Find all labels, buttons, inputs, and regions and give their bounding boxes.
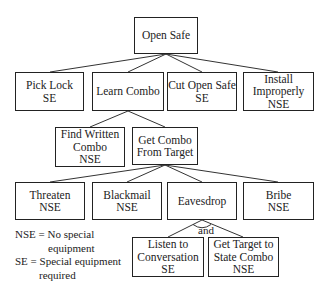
node-label-2: Conversation bbox=[137, 251, 198, 264]
node-blackmail: Blackmail NSE bbox=[92, 182, 162, 220]
edge-eavesdrop-listen bbox=[168, 220, 202, 237]
node-label: Blackmail bbox=[103, 189, 150, 202]
and-label: and bbox=[198, 224, 214, 236]
edge-learncombo-findwritten bbox=[90, 111, 128, 127]
node-bribe: Bribe NSE bbox=[243, 182, 314, 220]
edge-root-install bbox=[166, 54, 278, 72]
node-label: Learn Combo bbox=[96, 85, 160, 98]
node-equipment: NSE bbox=[268, 201, 290, 214]
node-equipment: NSE bbox=[116, 201, 138, 214]
node-threaten: Threaten NSE bbox=[15, 182, 85, 220]
node-equipment: NSE bbox=[268, 98, 290, 111]
legend-nse-line2: equipment bbox=[15, 242, 121, 256]
node-label-2: Improperly bbox=[253, 85, 305, 98]
legend-nse-line1: NSE = No special bbox=[15, 228, 121, 242]
node-label: Get Target to bbox=[213, 238, 273, 251]
node-get-target-to-state-combo: Get Target to State Combo NSE bbox=[208, 237, 279, 277]
node-equipment: SE bbox=[43, 92, 56, 105]
node-label: Eavesdrop bbox=[178, 195, 227, 208]
node-label: Find Written bbox=[61, 128, 119, 141]
node-label: Pick Lock bbox=[26, 79, 73, 92]
node-label: Cut Open Safe bbox=[168, 79, 236, 92]
node-learn-combo: Learn Combo bbox=[92, 72, 164, 111]
edge-getcombo-threaten bbox=[50, 165, 165, 182]
node-label: Install bbox=[264, 73, 293, 86]
edge-getcombo-bribe bbox=[165, 165, 278, 182]
legend: NSE = No special equipment SE = Special … bbox=[15, 228, 121, 282]
node-equipment: SE bbox=[195, 92, 208, 105]
node-equipment: NSE bbox=[79, 153, 101, 166]
node-get-combo-from-target: Get Combo From Target bbox=[132, 127, 198, 165]
legend-se-line1: SE = Special equipment bbox=[15, 255, 121, 269]
node-label: Bribe bbox=[266, 189, 292, 202]
node-eavesdrop: Eavesdrop bbox=[167, 182, 237, 220]
node-find-written-combo: Find Written Combo NSE bbox=[55, 127, 125, 167]
edge-learncombo-getcombo bbox=[128, 111, 165, 127]
node-pick-lock: Pick Lock SE bbox=[15, 72, 84, 111]
node-label-2: State Combo bbox=[214, 251, 274, 264]
node-label: Get Combo bbox=[138, 134, 191, 147]
node-label-2: Combo bbox=[73, 141, 107, 154]
node-equipment: SE bbox=[161, 263, 174, 276]
node-label: Listen to bbox=[148, 238, 189, 251]
node-open-safe: Open Safe bbox=[134, 17, 198, 54]
node-label: Open Safe bbox=[142, 29, 190, 42]
node-install-improperly: Install Improperly NSE bbox=[243, 72, 314, 111]
legend-se-line2: required bbox=[15, 269, 121, 283]
edge-root-picklock bbox=[50, 54, 166, 72]
node-label: Threaten bbox=[30, 189, 71, 202]
node-equipment: NSE bbox=[39, 201, 61, 214]
node-listen-to-conversation: Listen to Conversation SE bbox=[132, 237, 204, 277]
node-cut-open-safe: Cut Open Safe SE bbox=[167, 72, 237, 111]
node-equipment: NSE bbox=[233, 263, 255, 276]
node-label-2: From Target bbox=[137, 146, 194, 159]
